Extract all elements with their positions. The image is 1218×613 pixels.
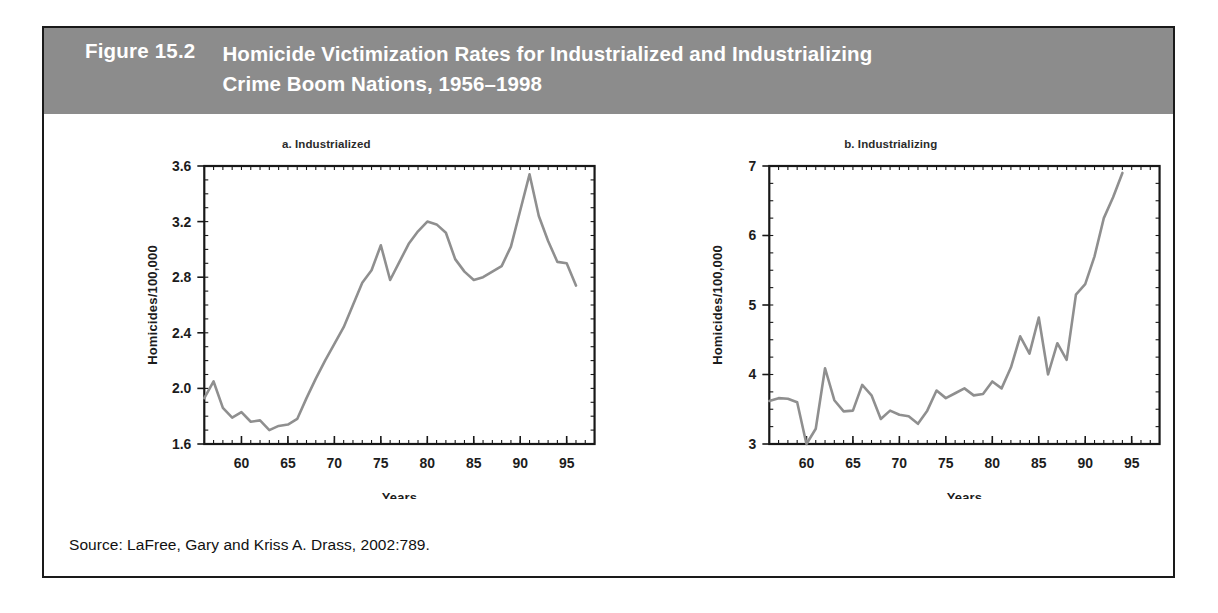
x-tick-label: 80 [420, 455, 436, 471]
y-tick-label: 5 [748, 297, 756, 313]
y-tick-label: 4 [748, 366, 756, 382]
charts-row: a. Industrialized 60657075808590951.62.0… [44, 114, 1173, 499]
x-tick-label: 60 [234, 455, 250, 471]
x-tick-label: 65 [845, 455, 861, 471]
figure-title-line-1: Homicide Victimization Rates for Industr… [222, 39, 872, 69]
figure-container: Figure 15.2 Homicide Victimization Rates… [42, 26, 1175, 578]
chart-panel-industrialized: a. Industrialized 60657075808590951.62.0… [44, 114, 609, 499]
x-tick-label: 80 [984, 455, 1000, 471]
y-tick-label: 1.6 [172, 436, 192, 452]
x-tick-label: 90 [512, 455, 528, 471]
x-tick-label: 70 [891, 455, 907, 471]
data-series-line [769, 173, 1122, 444]
y-tick-label: 3.6 [172, 158, 192, 174]
figure-title: Homicide Victimization Rates for Industr… [222, 39, 872, 99]
y-axis-label: Homicides/100,000 [709, 245, 724, 365]
source-note: Source: LaFree, Gary and Kriss A. Drass,… [69, 536, 430, 554]
x-axis-label: Years [946, 490, 982, 499]
x-tick-label: 60 [798, 455, 814, 471]
figure-number-label: Figure 15.2 [85, 39, 222, 63]
y-tick-label: 2.0 [172, 380, 192, 396]
x-tick-label: 70 [327, 455, 343, 471]
figure-header-bar: Figure 15.2 Homicide Victimization Rates… [44, 28, 1173, 114]
line-chart-industrializing: 606570758085909534567Homicides/100,000Ye… [609, 114, 1174, 499]
chart-panel-industrializing: b. Industrializing 606570758085909534567… [609, 114, 1174, 499]
line-chart-industrialized: 60657075808590951.62.02.42.83.23.6Homici… [44, 114, 609, 499]
x-tick-label: 65 [280, 455, 296, 471]
x-tick-label: 75 [373, 455, 389, 471]
x-tick-label: 95 [1123, 455, 1139, 471]
x-tick-label: 95 [559, 455, 575, 471]
y-tick-label: 6 [748, 227, 756, 243]
y-tick-label: 2.4 [172, 325, 192, 341]
figure-title-line-2: Crime Boom Nations, 1956–1998 [222, 69, 872, 99]
y-axis-label: Homicides/100,000 [145, 245, 160, 365]
x-tick-label: 85 [1031, 455, 1047, 471]
y-tick-label: 7 [748, 158, 756, 174]
data-series-line [204, 174, 576, 430]
x-tick-label: 90 [1077, 455, 1093, 471]
y-tick-label: 3 [748, 436, 756, 452]
x-tick-label: 75 [938, 455, 954, 471]
x-axis-label: Years [382, 490, 418, 499]
y-tick-label: 2.8 [172, 269, 192, 285]
figure-title-block: Figure 15.2 Homicide Victimization Rates… [85, 39, 872, 99]
x-tick-label: 85 [466, 455, 482, 471]
y-tick-label: 3.2 [172, 214, 192, 230]
